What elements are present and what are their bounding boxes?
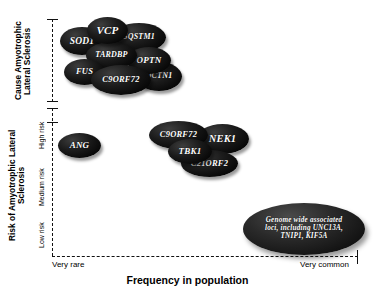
bubble-c9orf72: C9ORF72 [91, 65, 151, 95]
risk-axis-line [52, 108, 53, 256]
bubble-gwas-loci: Genome wide associated loci, including U… [243, 203, 365, 255]
bubble-tbk1: TBK1 [168, 139, 212, 164]
bubble-vcp: VCP [87, 17, 128, 44]
cause-axis-title: Cause Amyotrophic Lateral Sclerosis [14, 19, 44, 103]
x-axis-title: Frequency in population [0, 274, 375, 286]
cause-axis-bottom-tick [47, 101, 58, 102]
x-tick-very-rare: Very rare [52, 260, 84, 269]
risk-tick-low-risk: Low risk [38, 215, 49, 255]
als-genetics-figure: Cause Amyotrophic Lateral Sclerosis Risk… [0, 0, 375, 294]
x-axis-line [52, 256, 358, 257]
x-axis-right-tick [357, 250, 358, 264]
risk-tick-medium-risk: Medium risk [38, 162, 49, 212]
bubble-ang: ANG [58, 133, 101, 158]
x-tick-very-common: Very common [300, 260, 349, 269]
cause-axis-line [52, 19, 53, 102]
risk-axis-title: Risk of Amyotrophic Lateral Sclerosis [8, 120, 38, 250]
risk-tick-high-risk: High risk [38, 112, 49, 158]
